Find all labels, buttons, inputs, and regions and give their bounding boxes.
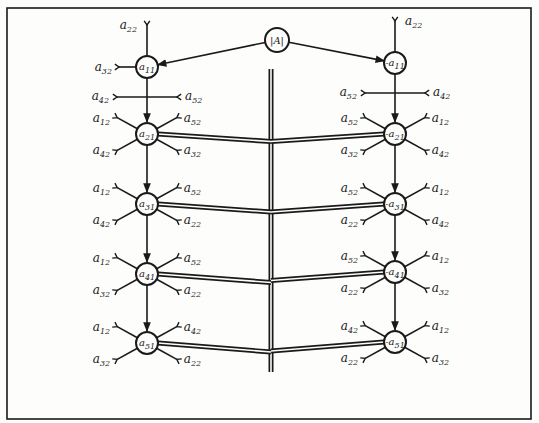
input-fork-icon [425,321,430,326]
label-a32: a32 [432,281,449,297]
input-fork-icon [392,17,398,21]
label-a42: a42 [432,213,449,229]
label-a12: a12 [432,181,449,197]
label-a22: a22 [341,213,358,229]
label-a22: a22 [120,18,137,34]
diagram-canvas: |A|a11a21a31a41a51-a11-a21-a31-a41-a51 a… [0,0,539,423]
label-a42: a42 [341,319,358,335]
edge [365,277,385,288]
input-fork-icon [360,321,365,326]
input-fork-icon [360,183,365,188]
edge [405,118,425,129]
input-fork-icon [360,150,365,155]
input-fork-icon [112,183,117,188]
input-fork-icon [115,64,119,70]
edge [405,256,425,267]
edge [117,209,137,220]
input-fork-icon [112,150,117,155]
edge [405,188,425,199]
input-fork-icon [112,322,117,327]
edge [117,118,137,129]
label-a12: a12 [93,181,110,197]
edge [117,258,137,269]
label-a12: a12 [432,249,449,265]
edge [117,139,137,150]
label-a22: a22 [405,14,422,30]
edge [405,209,425,220]
label-a32: a32 [184,143,201,159]
label-a42: a42 [184,320,201,336]
input-fork-icon [177,253,182,258]
label-a52: a52 [184,251,201,267]
input-fork-icon [177,113,182,118]
input-fork-icon [112,253,117,258]
label-a12: a12 [432,111,449,127]
edge [157,348,177,359]
input-fork-icon [425,358,430,363]
input-fork-icon [425,90,429,96]
edge [405,277,425,288]
input-fork-icon [112,290,117,295]
edge [117,279,137,290]
edge [157,279,177,290]
label-a32: a32 [93,283,110,299]
edge [405,347,425,358]
label-a22: a22 [341,351,358,367]
input-fork-icon [425,183,430,188]
input-fork-icon [177,359,182,364]
edge [365,347,385,358]
label-a52: a52 [184,181,201,197]
input-fork-icon [177,94,181,100]
input-fork-icon [360,358,365,363]
input-fork-icon [360,220,365,225]
label-a52: a52 [341,249,358,265]
label-a42: a42 [92,89,109,105]
edge [405,326,425,337]
edge [117,348,137,359]
input-fork-icon [425,113,430,118]
label-a22: a22 [184,283,201,299]
edge [365,326,385,337]
input-fork-icon [177,150,182,155]
label-a42: a42 [433,85,450,101]
edge [289,42,384,61]
label-a32: a32 [95,60,112,76]
edge [365,209,385,220]
edge [157,188,177,199]
input-fork-icon [144,21,150,25]
label-a32: a32 [341,143,358,159]
label-a32: a32 [432,351,449,367]
label-a12: a12 [93,111,110,127]
label-a22: a22 [341,281,358,297]
input-fork-icon [425,220,430,225]
label-a42: a42 [93,143,110,159]
label-a12: a12 [93,251,110,267]
input-fork-icon [112,359,117,364]
edge [365,256,385,267]
label-a12: a12 [93,320,110,336]
input-fork-icon [177,290,182,295]
edge [365,118,385,129]
input-fork-icon [425,150,430,155]
input-fork-icon [360,113,365,118]
input-fork-icon [361,90,365,96]
label-a32: a32 [93,352,110,368]
edge [157,139,177,150]
label-a52: a52 [341,181,358,197]
edge [157,258,177,269]
label-a22: a22 [184,213,201,229]
edge [365,188,385,199]
edge [157,118,177,129]
edge [117,188,137,199]
label-A: |A| [270,35,284,47]
input-fork-icon [360,288,365,293]
edge [117,327,137,338]
input-fork-icon [425,251,430,256]
label-a52: a52 [340,85,357,101]
label-a52: a52 [341,111,358,127]
edge [365,139,385,150]
label-a52: a52 [184,111,201,127]
network-diagram: |A|a11a21a31a41a51-a11-a21-a31-a41-a51 a… [0,0,539,423]
edge [405,139,425,150]
input-fork-icon [113,94,117,100]
